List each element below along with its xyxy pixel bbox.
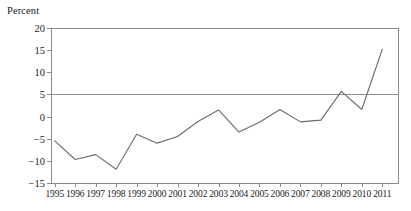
x-tick-mark bbox=[198, 183, 199, 187]
y-tick-label: −10 bbox=[29, 155, 45, 166]
x-tick-mark bbox=[259, 183, 260, 187]
x-tick-mark bbox=[75, 183, 76, 187]
y-axis-unit-label: Percent bbox=[7, 5, 39, 17]
y-tick-label: −5 bbox=[34, 133, 45, 144]
x-tick-mark bbox=[219, 183, 220, 187]
x-tick-mark bbox=[116, 183, 117, 187]
x-tick-label: 2009 bbox=[332, 189, 351, 199]
x-tick-label: 1999 bbox=[127, 189, 146, 199]
x-tick-label: 2006 bbox=[271, 189, 290, 199]
x-tick-mark bbox=[96, 183, 97, 187]
x-tick-mark bbox=[157, 183, 158, 187]
y-tick-label: 5 bbox=[40, 89, 45, 100]
x-tick-label: 2008 bbox=[312, 189, 331, 199]
x-tick-mark bbox=[362, 183, 363, 187]
x-tick-mark bbox=[55, 183, 56, 187]
y-tick-mark bbox=[47, 183, 51, 184]
y-tick-label: 0 bbox=[40, 111, 45, 122]
x-tick-label: 2001 bbox=[168, 189, 187, 199]
x-tick-label: 1998 bbox=[107, 189, 126, 199]
x-tick-mark bbox=[300, 183, 301, 187]
x-tick-label: 1995 bbox=[45, 189, 64, 199]
x-tick-label: 2004 bbox=[230, 189, 249, 199]
x-tick-mark bbox=[280, 183, 281, 187]
y-tick-label: 10 bbox=[35, 67, 46, 78]
y-tick-label: 15 bbox=[35, 45, 46, 56]
x-tick-label: 2007 bbox=[291, 189, 310, 199]
x-tick-mark bbox=[239, 183, 240, 187]
y-tick-label: 20 bbox=[35, 23, 46, 34]
plot-area: 20151050−5−10−15 19951996199719981999200… bbox=[51, 28, 399, 183]
x-tick-label: 1996 bbox=[66, 189, 85, 199]
x-tick-label: 1997 bbox=[86, 189, 105, 199]
x-tick-mark bbox=[321, 183, 322, 187]
x-tick-label: 2000 bbox=[148, 189, 167, 199]
x-tick-label: 2002 bbox=[189, 189, 208, 199]
x-tick-mark bbox=[382, 183, 383, 187]
x-tick-mark bbox=[341, 183, 342, 187]
x-tick-mark bbox=[178, 183, 179, 187]
x-tick-mark bbox=[137, 183, 138, 187]
chart-container: Percent 20151050−5−10−15 199519961997199… bbox=[0, 0, 411, 211]
y-tick-label: −15 bbox=[29, 178, 45, 189]
x-axis-line bbox=[51, 183, 399, 184]
x-tick-label: 2010 bbox=[352, 189, 371, 199]
x-tick-label: 2011 bbox=[373, 189, 391, 199]
x-tick-label: 2003 bbox=[209, 189, 228, 199]
x-tick-label: 2005 bbox=[250, 189, 269, 199]
data-series-line bbox=[51, 28, 399, 183]
